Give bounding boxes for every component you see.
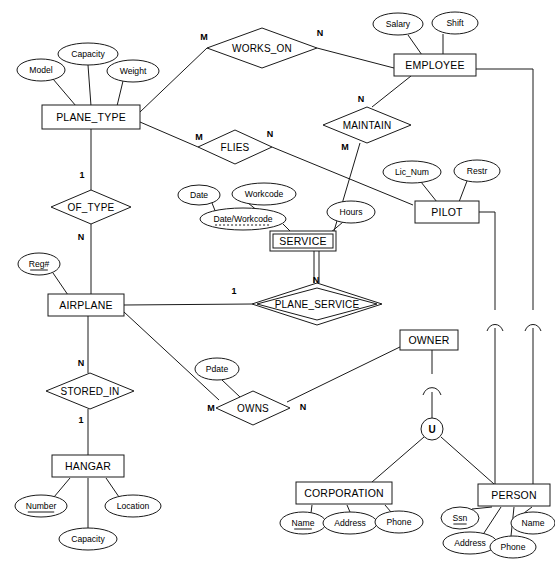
- entity-service[interactable]: SERVICE: [270, 231, 336, 251]
- category-union-circle[interactable]: U: [421, 418, 443, 440]
- attribute-hg_capacity[interactable]: Capacity: [59, 528, 117, 550]
- attribute-pt_weight[interactable]: Weight: [107, 60, 159, 82]
- relationship-label-plane_service: PLANE_SERVICE: [275, 299, 360, 310]
- entity-label-service: SERVICE: [279, 235, 326, 247]
- attr-link-corp-name: [311, 505, 312, 513]
- cardinality-stored_in-airplane: N: [78, 358, 85, 368]
- relationship-label-of_type: OF_TYPE: [68, 202, 115, 213]
- entity-employee[interactable]: EMPLOYEE: [394, 54, 476, 76]
- attribute-label-hg_capacity: Capacity: [71, 534, 105, 544]
- attribute-ap_reg[interactable]: Reg#: [18, 253, 60, 275]
- relationship-label-works_on: WORKS_ON: [232, 43, 292, 54]
- entity-corporation[interactable]: CORPORATION: [296, 482, 392, 504]
- attr-link-number: [54, 478, 70, 497]
- attribute-label-srv_workcode: Workcode: [245, 189, 284, 199]
- link-union-person: [441, 437, 494, 484]
- attribute-dateworkcode[interactable]: Date/Workcode: [200, 208, 286, 230]
- relationship-plane_service[interactable]: PLANE_SERVICE: [252, 283, 382, 325]
- attribute-pil_licnum[interactable]: Lic_Num: [383, 161, 441, 183]
- entity-label-owner: OWNER: [408, 334, 449, 346]
- attr-link-licnum: [421, 182, 437, 202]
- attribute-hg_location[interactable]: Location: [105, 495, 161, 517]
- cardinality-owns-owner: N: [300, 402, 307, 412]
- entity-person[interactable]: PERSON: [478, 484, 550, 506]
- attribute-emp_salary[interactable]: Salary: [373, 13, 423, 35]
- attr-link-salary: [408, 35, 422, 55]
- cardinality-of_type-airplane: N: [78, 232, 85, 242]
- attribute-pt_model[interactable]: Model: [17, 59, 65, 81]
- attribute-label-ap_reg: Reg#: [29, 259, 50, 269]
- relationship-works_on[interactable]: WORKS_ON: [207, 28, 317, 68]
- er-diagram-svg: PLANE_TYPEEMPLOYEEPILOTSERVICEAIRPLANEHA…: [0, 0, 555, 568]
- nodes-layer: PLANE_TYPEEMPLOYEEPILOTSERVICEAIRPLANEHA…: [15, 12, 555, 558]
- attribute-label-corp_address: Address: [334, 518, 366, 528]
- attr-link-corp-phone: [385, 505, 391, 512]
- entity-label-hangar: HANGAR: [65, 460, 111, 472]
- entity-label-employee: EMPLOYEE: [405, 59, 464, 71]
- er-diagram-canvas: PLANE_TYPEEMPLOYEEPILOTSERVICEAIRPLANEHA…: [0, 0, 555, 568]
- entity-owner[interactable]: OWNER: [400, 330, 458, 350]
- link-planetype-flies: [140, 122, 198, 147]
- attribute-srv_date[interactable]: Date: [178, 185, 220, 205]
- attribute-hg_number[interactable]: Number: [15, 495, 67, 517]
- relationship-flies[interactable]: FLIES: [198, 130, 272, 164]
- attribute-per_name[interactable]: Name: [511, 512, 555, 534]
- attribute-owns_pdate[interactable]: Pdate: [195, 358, 239, 380]
- attribute-label-corp_name: Name: [292, 518, 315, 528]
- entity-label-person: PERSON: [491, 489, 537, 501]
- relationship-maintain[interactable]: MAINTAIN: [323, 107, 411, 143]
- attribute-per_phone[interactable]: Phone: [490, 536, 536, 558]
- attribute-label-corp_phone: Phone: [387, 517, 412, 527]
- cardinality-works_on-plane_type: M: [200, 32, 208, 42]
- attr-link-per-address: [484, 507, 501, 533]
- attribute-label-pil_licnum: Lic_Num: [395, 167, 429, 177]
- attribute-label-srv_date: Date: [190, 190, 208, 200]
- attribute-label-dateworkcode: Date/Workcode: [213, 214, 272, 224]
- relationship-label-flies: FLIES: [221, 142, 250, 153]
- relationship-label-stored_in: STORED_IN: [61, 386, 120, 397]
- attribute-label-pt_model: Model: [29, 65, 52, 75]
- category-symbol-label: U: [428, 424, 435, 435]
- entity-plane_type[interactable]: PLANE_TYPE: [42, 105, 140, 129]
- relationship-label-maintain: MAINTAIN: [343, 120, 392, 131]
- attribute-srv_hours[interactable]: Hours: [327, 201, 375, 223]
- attribute-label-emp_shift: Shift: [446, 18, 464, 28]
- attr-link-weight: [117, 81, 123, 106]
- relationship-owns[interactable]: OWNS: [216, 391, 290, 425]
- cardinality-works_on-employee: N: [317, 28, 324, 38]
- attribute-emp_shift[interactable]: Shift: [432, 12, 478, 34]
- cardinality-maintain-employee: N: [358, 94, 365, 104]
- attribute-corp_address[interactable]: Address: [323, 512, 377, 534]
- attr-link-location: [106, 478, 119, 497]
- entity-label-airplane: AIRPLANE: [59, 299, 113, 311]
- cardinality-plane_service-service: N: [313, 275, 320, 285]
- attribute-label-pt_capacity: Capacity: [71, 49, 105, 59]
- attribute-label-owns_pdate: Pdate: [206, 364, 229, 374]
- link-employee-bus: [476, 69, 533, 310]
- entity-airplane[interactable]: AIRPLANE: [48, 294, 124, 316]
- attribute-label-per_address: Address: [454, 538, 486, 548]
- attribute-pil_restr[interactable]: Restr: [454, 160, 500, 182]
- attribute-per_address[interactable]: Address: [443, 532, 497, 554]
- attribute-corp_name[interactable]: Name: [280, 512, 326, 534]
- entity-pilot[interactable]: PILOT: [415, 201, 479, 223]
- entity-label-corporation: CORPORATION: [304, 487, 384, 499]
- link-workson-employee: [317, 48, 394, 68]
- relationship-label-owns: OWNS: [237, 403, 269, 414]
- cardinality-maintain-service: M: [341, 142, 349, 152]
- link-union-corporation: [372, 437, 424, 482]
- attribute-srv_workcode[interactable]: Workcode: [232, 183, 296, 205]
- link-planetype-workson: [140, 48, 207, 112]
- attribute-label-pil_restr: Restr: [467, 166, 488, 176]
- attribute-corp_phone[interactable]: Phone: [375, 511, 423, 533]
- attr-link-ssn: [472, 507, 492, 509]
- entity-label-plane_type: PLANE_TYPE: [56, 111, 126, 123]
- relationship-stored_in[interactable]: STORED_IN: [46, 373, 134, 409]
- cardinality-stored_in-hangar: 1: [78, 415, 83, 425]
- attribute-per_ssn[interactable]: Ssn: [441, 507, 479, 529]
- relationship-of_type[interactable]: OF_TYPE: [51, 190, 131, 224]
- attr-link-restr: [459, 181, 467, 202]
- entity-hangar[interactable]: HANGAR: [52, 455, 124, 477]
- attribute-pt_capacity[interactable]: Capacity: [58, 43, 118, 65]
- attr-link-pdate: [222, 380, 240, 397]
